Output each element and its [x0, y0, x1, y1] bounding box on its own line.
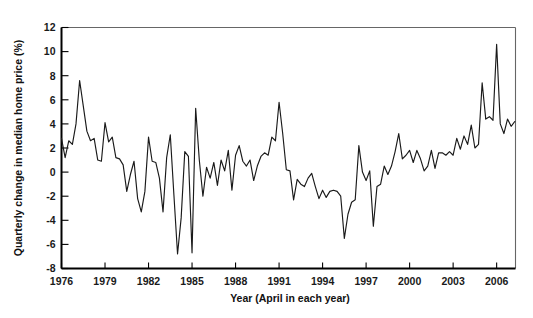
- x-tick-label: 2006: [485, 275, 509, 287]
- x-tick-label: 2000: [398, 275, 422, 287]
- y-tick-label: 6: [50, 94, 56, 106]
- chart-background: [0, 0, 533, 318]
- chart-figure: 1976197919821985198819911994199720002003…: [0, 0, 533, 318]
- y-tick-label: 2: [50, 142, 56, 154]
- x-tick-label: 1979: [93, 275, 117, 287]
- x-tick-label: 1988: [224, 275, 248, 287]
- y-tick-label: -4: [46, 214, 55, 226]
- x-tick-label: 1994: [311, 275, 335, 287]
- y-tick-label: 0: [50, 166, 56, 178]
- x-tick-label: 1976: [50, 275, 74, 287]
- y-tick-label: -8: [46, 262, 55, 274]
- x-tick-label: 1982: [137, 275, 161, 287]
- home-price-line-chart: 1976197919821985198819911994199720002003…: [0, 0, 533, 318]
- y-tick-label: 8: [50, 70, 56, 82]
- y-tick-label: 10: [44, 45, 56, 57]
- x-tick-label: 1985: [180, 275, 204, 287]
- x-tick-label: 1991: [267, 275, 291, 287]
- x-axis-title: Year (April in each year): [230, 292, 350, 304]
- y-tick-label: 12: [44, 21, 56, 33]
- y-tick-label: 4: [50, 118, 56, 130]
- x-tick-label: 1997: [354, 275, 378, 287]
- y-axis-title: Quarterly change in median home price (%…: [12, 40, 24, 256]
- y-tick-label: -2: [46, 190, 55, 202]
- y-tick-label: -6: [46, 238, 55, 250]
- x-tick-label: 2003: [441, 275, 465, 287]
